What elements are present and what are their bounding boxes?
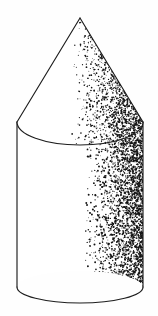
stipple-dot-cone [138,92,139,93]
stipple-dot-cone [104,113,105,114]
stipple-dot-cylinder [105,290,106,291]
stipple-dot-cylinder [126,222,127,223]
stipple-dot-cone [111,88,113,90]
stipple-dot-cylinder [137,183,139,185]
stipple-dot-cylinder [141,285,142,286]
stipple-dot-cylinder [118,144,119,145]
stipple-dot-cone [120,55,122,57]
stipple-dot-cone [101,103,103,105]
stipple-dot-cylinder [133,166,135,168]
stipple-dot-cylinder [126,224,127,225]
stipple-dot-cone [125,131,126,132]
stipple-dot-cylinder [117,201,118,202]
stipple-dot-cone [129,88,130,89]
stipple-dot-cylinder [128,293,129,294]
stipple-dot-cylinder [138,166,139,167]
stipple-dot-cone [139,109,141,111]
stipple-dot-cylinder [122,252,123,253]
stipple-dot-cylinder [114,166,115,167]
stipple-dot-cone [131,100,132,101]
stipple-dot-cone [114,109,115,110]
stipple-dot-cone [129,70,130,71]
stipple-dot-cone [93,46,94,47]
stipple-dot-cone [96,128,97,129]
stipple-dot-cone [84,139,85,140]
stipple-dot-cone [89,24,90,25]
stipple-dot-cylinder [139,150,140,151]
stipple-dot-cone [119,77,120,78]
stipple-dot-cone [94,39,95,40]
stipple-dot-cone [83,99,84,100]
stipple-dot-cone [138,78,140,80]
stipple-dot-cylinder [103,261,104,262]
stipple-dot-cylinder [101,201,103,203]
stipple-dot-cone [138,26,139,27]
stipple-dot-cone [103,69,105,71]
stipple-dot-cylinder [109,247,111,249]
figure-canvas: Cone mounted on a cylinder, ink drawing … [0,0,158,316]
stipple-dot-cone [115,57,117,59]
stipple-dot-cone [99,37,100,38]
stipple-dot-cone [126,27,127,28]
stipple-dot-cylinder [85,202,87,204]
stipple-dot-cylinder [110,195,111,196]
stipple-dot-cone [119,25,121,27]
stipple-dot-cylinder [126,218,128,220]
stipple-dot-cylinder [121,167,122,168]
stipple-dot-cone [134,31,136,33]
stipple-dot-cylinder [142,292,144,294]
stipple-dot-cone [110,27,112,29]
stipple-dot-cylinder [134,151,135,152]
stipple-dot-cylinder [118,282,119,283]
stipple-dot-cone [136,33,138,35]
stipple-dot-cone [133,97,134,98]
stipple-dot-cone [127,90,128,91]
stipple-dot-cone [139,100,140,101]
stipple-dot-cone [130,33,131,34]
stipple-dot-cone [142,91,143,92]
stipple-dot-cylinder [123,166,125,168]
stipple-dot-cone [138,74,140,76]
stipple-dot-cone [106,27,107,28]
stipple-dot-cylinder [122,220,123,221]
stipple-dot-cone [134,72,135,73]
stipple-dot-cylinder [126,237,127,238]
stipple-dot-cylinder [127,282,128,283]
stipple-dot-cone [131,107,133,109]
stipple-dot-cone [136,114,137,115]
stipple-dot-cone [86,106,87,107]
stipple-dot-cone [105,26,107,28]
stipple-dot-cylinder [131,265,132,266]
stipple-dot-cone [138,64,139,65]
stipple-dot-cylinder [101,226,103,228]
stipple-dot-cylinder [118,184,119,185]
stipple-dot-cone [137,82,139,84]
stipple-dot-cone [135,61,136,62]
stipple-dot-cylinder [141,148,143,150]
stipple-dot-cylinder [135,280,137,282]
stipple-dot-cylinder [117,158,119,160]
stipple-dot-cylinder [139,216,140,217]
stipple-dot-cone [113,26,115,28]
stipple-dot-cone [126,90,127,91]
stipple-dot-cone [138,33,140,35]
stipple-dot-cylinder [115,153,116,154]
stipple-dot-cone [114,51,115,52]
stipple-dot-cone [131,80,132,81]
stipple-dot-cone [142,112,143,113]
stipple-dot-cone [134,86,136,88]
stipple-dot-cylinder [110,155,111,156]
stipple-dot-cylinder [133,298,134,299]
stipple-dot-cone [108,123,109,124]
stipple-dot-cylinder [125,165,126,166]
stipple-dot-cone [141,94,142,95]
stipple-dot-cone [128,86,129,87]
stipple-dot-cylinder [116,254,118,256]
stipple-dot-cone [101,62,102,63]
stipple-dot-cylinder [127,260,129,262]
stipple-dot-cone [124,48,125,49]
stipple-dot-cone [128,86,129,87]
stipple-dot-cone [102,125,103,126]
stipple-dot-cone [94,51,95,52]
stipple-dot-cylinder [133,302,135,304]
